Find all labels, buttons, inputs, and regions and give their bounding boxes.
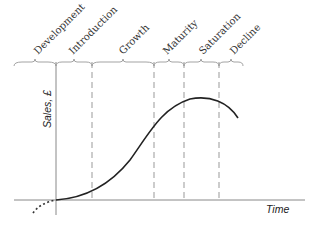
stage-label-growth: Growth bbox=[117, 22, 152, 57]
development-curve-dotted bbox=[33, 200, 56, 213]
x-axis-label: Time bbox=[266, 203, 289, 215]
sales-curve bbox=[56, 98, 238, 200]
stage-label-maturity: Maturity bbox=[161, 17, 200, 56]
y-axis-label: Sales, £ bbox=[41, 89, 53, 128]
stage-braces bbox=[14, 59, 243, 66]
product-life-cycle-diagram: Development Introduction Growth Maturity… bbox=[0, 0, 316, 225]
